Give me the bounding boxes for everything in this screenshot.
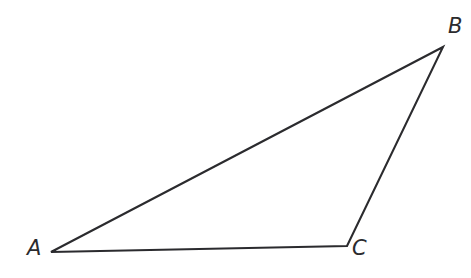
triangle-canvas (0, 0, 471, 278)
vertex-label-c: C (352, 238, 367, 259)
triangle-diagram: A B C (0, 0, 471, 278)
vertex-label-b: B (448, 16, 462, 37)
vertex-label-a: A (27, 238, 41, 259)
triangle-abc-outline (51, 47, 443, 252)
